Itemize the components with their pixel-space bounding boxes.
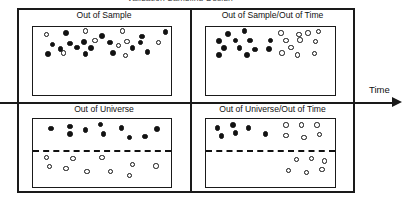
data-point-hollow	[309, 156, 314, 161]
data-point-hollow	[316, 29, 321, 34]
data-point-hollow	[304, 170, 309, 175]
data-point-hollow	[312, 51, 317, 56]
data-point-hollow	[294, 157, 299, 162]
data-point-filled	[247, 38, 253, 44]
data-point-hollow	[278, 30, 283, 35]
data-point-filled	[230, 122, 236, 128]
data-point-filled	[163, 29, 169, 35]
data-point-hollow	[63, 166, 68, 171]
data-point-filled	[244, 52, 250, 58]
data-point-hollow	[286, 168, 291, 173]
data-point-filled	[237, 45, 243, 51]
data-point-filled	[63, 30, 69, 36]
quadrant-out-of-sample-out-of-time: Out of Sample/Out of Time	[192, 10, 353, 100]
data-point-filled	[216, 38, 222, 44]
quadrant-out-of-universe: Out of Universe	[19, 104, 189, 192]
time-axis-label: Time	[369, 84, 390, 95]
data-point-hollow	[283, 38, 288, 43]
data-point-filled	[107, 40, 113, 46]
data-point-hollow	[120, 28, 125, 33]
data-point-hollow	[288, 45, 293, 50]
data-point-hollow	[70, 156, 75, 161]
data-point-filled	[48, 126, 54, 132]
data-point-hollow	[44, 155, 49, 160]
data-point-hollow	[297, 37, 302, 42]
data-point-filled	[215, 125, 221, 131]
data-point-filled	[268, 38, 274, 44]
panel-divider-dashed-line	[33, 150, 171, 152]
data-point-filled	[98, 122, 104, 128]
scatter-panel	[205, 118, 336, 188]
data-point-filled	[83, 127, 89, 133]
data-point-filled	[45, 51, 51, 57]
data-point-filled	[252, 47, 258, 53]
scatter-panel	[205, 26, 336, 96]
data-point-hollow	[108, 169, 113, 174]
data-point-hollow	[279, 50, 284, 55]
data-point-filled	[145, 49, 151, 55]
data-point-filled	[216, 52, 222, 58]
quadrant-label: Out of Sample	[19, 10, 189, 21]
scatter-panel	[32, 118, 172, 188]
data-point-filled	[50, 42, 56, 48]
data-point-filled	[101, 131, 107, 137]
quadrant-out-of-sample: Out of Sample	[19, 10, 189, 100]
data-point-filled	[263, 131, 269, 137]
data-point-filled	[242, 28, 248, 34]
data-point-hollow	[123, 53, 128, 58]
data-point-hollow	[313, 39, 318, 44]
data-point-hollow	[295, 52, 300, 57]
data-point-filled	[233, 130, 239, 136]
data-point-hollow	[92, 38, 97, 43]
data-point-filled	[127, 135, 133, 141]
data-point-hollow	[44, 32, 49, 37]
data-point-hollow	[83, 28, 88, 33]
quadrant-label: Out of Universe	[19, 104, 189, 115]
data-point-filled	[99, 33, 105, 39]
data-point-hollow	[305, 30, 310, 35]
data-point-hollow	[156, 40, 161, 45]
quadrant-out-of-universe-out-of-time: Out of Universe/Out of Time	[192, 104, 353, 192]
data-point-filled	[246, 125, 252, 131]
time-axis-arrowhead	[392, 97, 402, 107]
data-point-hollow	[317, 132, 322, 137]
data-point-filled	[81, 39, 87, 45]
data-point-hollow	[116, 43, 121, 48]
data-point-hollow	[130, 162, 135, 167]
data-point-hollow	[84, 169, 89, 174]
data-point-filled	[138, 40, 144, 46]
data-point-filled	[119, 125, 125, 131]
data-point-hollow	[124, 39, 129, 44]
quadrant-label: Out of Universe/Out of Time	[192, 104, 353, 115]
data-point-filled	[233, 38, 239, 44]
data-point-filled	[225, 31, 231, 37]
data-point-hollow	[61, 50, 66, 55]
data-point-filled	[83, 51, 89, 57]
data-point-filled	[130, 45, 136, 51]
quadrant-label: Out of Sample/Out of Time	[192, 10, 353, 21]
scatter-panel	[32, 26, 172, 96]
data-point-filled	[67, 131, 73, 137]
figure-title: Validation Sampling Design	[0, 0, 360, 1]
data-point-filled	[139, 34, 145, 40]
data-point-hollow	[153, 163, 158, 168]
data-point-filled	[67, 124, 73, 130]
data-point-hollow	[99, 155, 104, 160]
data-point-hollow	[47, 164, 52, 169]
data-point-hollow	[301, 135, 306, 140]
data-point-hollow	[283, 122, 288, 127]
data-point-filled	[88, 45, 94, 51]
data-point-filled	[74, 45, 80, 51]
data-point-filled	[142, 134, 148, 140]
data-point-filled	[219, 133, 225, 139]
data-point-hollow	[127, 173, 132, 178]
data-point-filled	[221, 45, 227, 51]
panel-divider-dashed-line	[206, 150, 335, 152]
data-point-hollow	[299, 122, 304, 127]
data-point-hollow	[314, 122, 319, 127]
data-point-hollow	[322, 158, 327, 163]
data-point-hollow	[283, 133, 288, 138]
data-point-filled	[154, 126, 160, 132]
data-point-filled	[110, 50, 116, 56]
diagram-canvas: Validation Sampling Design Time Out of S…	[0, 0, 403, 198]
